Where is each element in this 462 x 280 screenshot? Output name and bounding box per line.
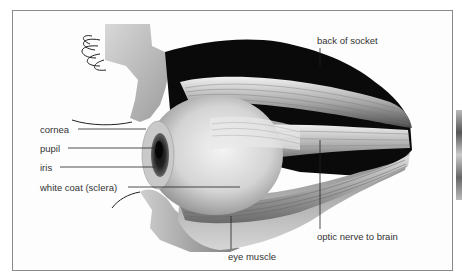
label-cornea: cornea xyxy=(40,124,69,135)
page-edge xyxy=(456,110,462,200)
label-back-of-socket: back of socket xyxy=(317,35,378,46)
label-eye-muscle: eye muscle xyxy=(228,251,276,262)
label-sclera: white coat (sclera) xyxy=(40,182,117,193)
pupil xyxy=(155,141,163,159)
label-iris: iris xyxy=(40,162,52,173)
label-pupil: pupil xyxy=(40,143,60,154)
label-optic-nerve: optic nerve to brain xyxy=(317,231,398,242)
brow-skin xyxy=(105,24,172,122)
